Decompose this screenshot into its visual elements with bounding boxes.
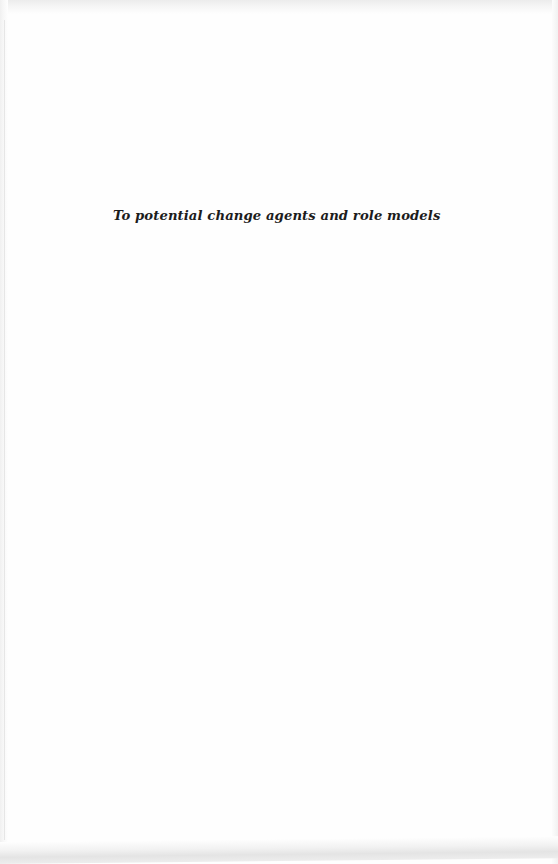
bottom-scan-shadow — [0, 836, 558, 864]
book-page: To potential change agents and role mode… — [0, 0, 558, 864]
left-margin-line — [4, 20, 5, 840]
top-scan-shadow — [0, 0, 558, 14]
right-page-edge — [552, 0, 558, 864]
dedication-text: To potential change agents and role mode… — [113, 208, 441, 223]
